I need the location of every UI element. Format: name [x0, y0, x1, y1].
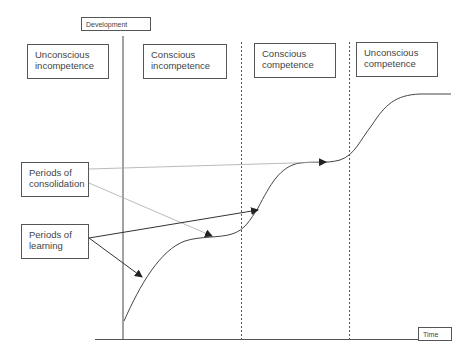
y-axis-label-text: Development — [86, 20, 146, 29]
annotation-line2: consolidation — [29, 178, 81, 189]
annotation-periods-of-learning: Periods of learning — [21, 224, 89, 259]
stage-label-line1: Conscious — [262, 48, 328, 59]
development-curve — [124, 94, 451, 321]
stage-label-line2: competence — [262, 59, 328, 70]
annotation-periods-of-consolidation: Periods of consolidation — [21, 162, 89, 197]
y-axis-label: Development — [81, 17, 151, 31]
x-axis-label: Time — [418, 327, 452, 341]
learning-arrow-1 — [89, 238, 142, 277]
stage-label-line1: Conscious — [151, 49, 219, 60]
stage-unconscious-competence: Unconscious competence — [356, 42, 438, 77]
stage-conscious-incompetence: Conscious incompetence — [143, 44, 227, 79]
stage-label-line2: competence — [364, 58, 430, 69]
stage-unconscious-incompetence: Unconscious incompetence — [27, 44, 109, 79]
stage-label-line2: incompetence — [35, 60, 101, 71]
stage-label-line1: Unconscious — [35, 49, 101, 60]
stage-label-line2: incompetence — [151, 60, 219, 71]
stage-label-line1: Unconscious — [364, 47, 430, 58]
annotation-line2: learning — [29, 240, 81, 251]
annotation-line1: Periods of — [29, 229, 81, 240]
x-axis-label-text: Time — [423, 330, 447, 339]
stage-conscious-competence: Conscious competence — [254, 43, 336, 78]
annotation-line1: Periods of — [29, 167, 81, 178]
